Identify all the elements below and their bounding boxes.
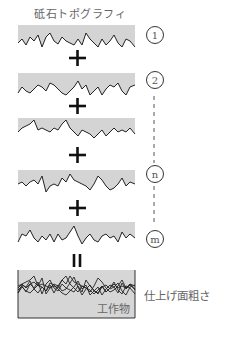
plus-icon [69,50,86,66]
circle-label-n: n [147,166,164,183]
plus-icon [69,98,86,114]
circle-label-2: 2 [147,72,164,89]
circle-label-m: m [147,231,164,248]
equals-icon [74,254,80,267]
svg-text:m: m [150,234,160,245]
profile-band-gap [18,118,135,138]
svg-text:1: 1 [152,30,158,41]
profile-band-m [18,222,135,244]
surface-roughness-label: 仕上げ面粗さ [144,287,210,303]
workpiece-label: 工作物 [97,300,130,316]
plus-icon [69,200,86,216]
index-circles: 12nm [147,27,164,248]
profile-band-2 [18,73,135,95]
profile-band-n [18,170,135,192]
plus-icon [69,147,86,163]
svg-text:n: n [152,169,159,180]
svg-text:2: 2 [152,75,158,86]
circle-label-1: 1 [147,27,164,44]
profile-band-1 [18,25,135,47]
